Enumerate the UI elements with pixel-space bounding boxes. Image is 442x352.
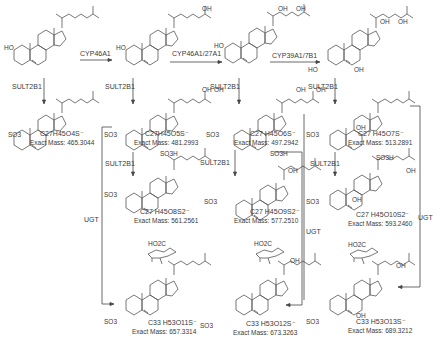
enzyme-label-cyp46a1: CYP46A1 bbox=[80, 50, 111, 58]
sulfonic-acid-label: SO3H bbox=[376, 154, 394, 161]
hydroxyl-group-label: OH bbox=[396, 262, 406, 269]
formula-label: C27 H45O7S⁻ bbox=[358, 130, 404, 138]
formula-label: C27 H45O6S⁻ bbox=[250, 130, 296, 138]
hydroxyl-group-label: OH bbox=[290, 257, 300, 264]
hydroxyl-group-label: OH bbox=[352, 196, 362, 203]
hydroxyl-group-label: OH bbox=[354, 66, 364, 73]
enzyme-label-cyp46a1-27a1: CYP46A1/27A1 bbox=[172, 50, 221, 58]
sulfate-group-label: SO3 bbox=[104, 318, 117, 325]
exact-mass-label: Exact Mass: 513.2891 bbox=[348, 139, 412, 147]
sulfate-group-label: SO3 bbox=[306, 198, 319, 205]
enzyme-label-cyp39a1-7b1: CYP39A1/7B1 bbox=[272, 52, 317, 60]
exact-mass-label: Exact Mass: 497.2942 bbox=[234, 139, 298, 147]
exact-mass-label: Exact Mass: 689.3212 bbox=[348, 327, 412, 335]
enzyme-label-sult2b1: SULT2B1 bbox=[310, 160, 340, 168]
enzyme-label-sult2b1: SULT2B1 bbox=[200, 159, 230, 167]
enzyme-label-sult2b1: SULT2B1 bbox=[105, 160, 135, 168]
formula-label: C27 H45O8S2⁻ bbox=[140, 208, 190, 216]
formula-label: C33 H53O11S⁻ bbox=[148, 319, 197, 327]
hydroxyl-group-label: OH bbox=[296, 5, 306, 12]
hydroxyl-group-label: OH bbox=[398, 18, 408, 25]
formula-label: C27 H45O9S2⁻ bbox=[250, 208, 300, 216]
hydroxyl-group-label: OH bbox=[406, 167, 416, 174]
enzyme-label-sult2b1: SULT2B1 bbox=[12, 83, 42, 91]
hydroxyl-group-label: HO bbox=[214, 42, 224, 49]
enzyme-label-ugt: UGT bbox=[306, 228, 321, 236]
formula-label: C27H45O4S⁻ bbox=[40, 130, 84, 138]
enzyme-label-ugt: UGT bbox=[418, 214, 433, 222]
glucuronide-acid-label: HO2C bbox=[348, 241, 366, 248]
formula-label: C33 H53O13S⁻ bbox=[356, 318, 406, 326]
hydroxyl-group-label: OH bbox=[214, 86, 224, 93]
exact-mass-label: Exact Mass: 481.2993 bbox=[134, 139, 198, 147]
sulfate-group-label: SO3 bbox=[306, 131, 319, 138]
hydroxyl-group-label: OH bbox=[202, 5, 212, 12]
hydroxyl-group-label: HO bbox=[308, 66, 318, 73]
exact-mass-label: Exact Mass: 561.2561 bbox=[134, 217, 198, 225]
glucuronide-acid-label: HO2C bbox=[148, 240, 166, 247]
sulfate-group-label: SO3 bbox=[206, 131, 219, 138]
exact-mass-label: Exact Mass: 465.3044 bbox=[30, 139, 94, 147]
sulfate-group-label: SO3 bbox=[200, 322, 213, 329]
sulfate-group-label: SO3 bbox=[204, 198, 217, 205]
hydroxyl-group-label: OH bbox=[288, 167, 298, 174]
sulfonic-acid-label: SO3H bbox=[270, 150, 288, 157]
sulfate-group-label: SO3 bbox=[104, 191, 117, 198]
exact-mass-label: Exact Mass: 577.2510 bbox=[234, 217, 298, 225]
enzyme-label-sult2b1: SULT2B1 bbox=[105, 83, 135, 91]
sulfate-group-label: SO3 bbox=[8, 131, 21, 138]
hydroxyl-group-label: OH bbox=[380, 18, 390, 25]
enzyme-label-ugt: UGT bbox=[84, 216, 99, 224]
glucuronide-acid-label: HO2C bbox=[254, 240, 272, 247]
hydroxyl-group-label: OH bbox=[296, 86, 306, 93]
pathway-diagram: CYP46A1 CYP46A1/27A1 CYP39A1/7B1 SULT2B1… bbox=[0, 0, 442, 352]
exact-mass-label: Exact Mass: 657.3314 bbox=[132, 328, 196, 336]
hydroxyl-group-label: HO bbox=[4, 44, 14, 51]
formula-label: C33 H53O12S⁻ bbox=[246, 320, 296, 328]
hydroxyl-group-label: OH bbox=[202, 86, 212, 93]
hydroxyl-group-label: HO bbox=[116, 44, 126, 51]
sulfonic-acid-label: SO3H bbox=[160, 150, 178, 157]
formula-label: C27H45O5S⁻ bbox=[145, 130, 189, 138]
formula-label: C27 H45O10S2⁻ bbox=[356, 211, 409, 219]
sulfate-group-label: SO3 bbox=[104, 131, 117, 138]
exact-mass-label: Exact Mass: 673.3263 bbox=[233, 329, 297, 337]
hydroxyl-group-label: OH bbox=[316, 86, 326, 93]
sulfate-group-label: SO3 bbox=[306, 318, 319, 325]
hydroxyl-group-label: OH bbox=[278, 5, 288, 12]
exact-mass-label: Exact Mass: 593.2460 bbox=[348, 220, 412, 228]
